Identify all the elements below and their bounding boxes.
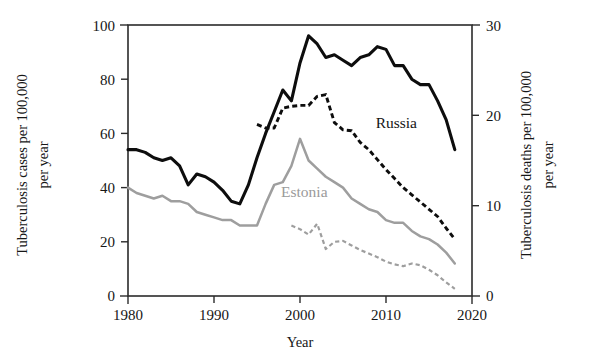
- series-label-russia: Russia: [376, 114, 417, 131]
- xtick-2010: 2010: [371, 307, 401, 323]
- ytick-left-40: 40: [100, 180, 115, 196]
- ytick-left-0: 0: [108, 288, 116, 304]
- right-axis-ticks: [472, 25, 480, 296]
- y-axis-right-title-line2: per year: [540, 141, 556, 188]
- ytick-left-20: 20: [100, 234, 115, 250]
- y-axis-right-title-line1: Tuberculosis deaths per 100,000: [518, 71, 534, 259]
- ytick-right-0: 0: [486, 288, 494, 304]
- xtick-2000: 2000: [285, 307, 315, 323]
- left-axis-ticks: [120, 25, 128, 296]
- tuberculosis-trend-chart: 100 80 60 40 20 0 30 20 10 0 1980 1990 2…: [0, 0, 601, 359]
- ytick-left-80: 80: [100, 72, 115, 88]
- ytick-right-10: 10: [486, 198, 501, 214]
- series-label-estonia: Estonia: [281, 183, 328, 200]
- xtick-1980: 1980: [113, 307, 143, 323]
- ytick-left-100: 100: [93, 18, 116, 34]
- xtick-2020: 2020: [457, 307, 487, 323]
- ytick-right-30: 30: [486, 18, 501, 34]
- x-axis-ticks: [128, 296, 472, 304]
- ytick-right-20: 20: [486, 108, 501, 124]
- x-axis-title: Year: [287, 334, 314, 350]
- series-line-estonia-cases: [128, 139, 455, 264]
- series-line-estonia-deaths: [291, 224, 454, 289]
- ytick-left-60: 60: [100, 126, 115, 142]
- y-axis-left-title-line2: per year: [35, 141, 51, 188]
- xtick-1990: 1990: [199, 307, 229, 323]
- series-line-russia-deaths: [257, 95, 455, 240]
- y-axis-left-title-line1: Tuberculosis cases per 100,000: [14, 74, 30, 256]
